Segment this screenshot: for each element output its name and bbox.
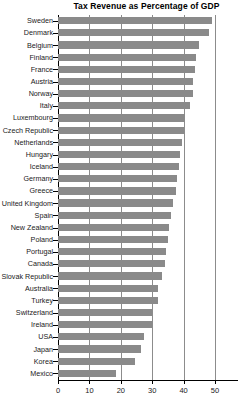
bar-row [58,210,238,222]
y-axis-label: New Zealand [0,224,53,231]
x-axis-label: 10 [85,386,93,395]
bar-row [58,51,238,63]
bar [58,78,193,85]
bar [58,17,212,24]
y-axis-label: Korea [0,358,53,365]
bar-row [58,355,238,367]
y-axis-label: Austria [0,78,53,85]
bar [58,127,184,134]
y-axis-label: Norway [0,90,53,97]
bar [58,199,173,206]
y-axis-label: Belgium [0,42,53,49]
bar [58,29,209,36]
bar-row [58,270,238,282]
bar-row [58,100,238,112]
bar-chart: Tax Revenue as Percentage of GDP SwedenD… [0,0,238,408]
bar-row [58,137,238,149]
bar [58,260,165,267]
bar [58,272,162,279]
y-axis-label: Mexico [0,370,53,377]
bar [58,102,190,109]
bar-row [58,295,238,307]
bar-row [58,124,238,136]
y-axis-label: Canada [0,260,53,267]
x-axis-tick [152,380,153,384]
x-axis-tick [121,380,122,384]
bar [58,370,116,377]
bar-row [58,185,238,197]
y-axis-label: Turkey [0,297,53,304]
bar [58,333,144,340]
y-axis-label: USA [0,333,53,340]
bar [58,90,193,97]
bar-row [58,307,238,319]
y-axis-label: Germany [0,175,53,182]
y-axis-label: Czech Republic [0,127,53,134]
chart-title: Tax Revenue as Percentage of GDP [55,1,238,11]
y-axis-label: Hungary [0,151,53,158]
y-axis-label: Netherlands [0,139,53,146]
bar-row [58,222,238,234]
y-axis-label: Italy [0,102,53,109]
x-axis-label: 0 [56,386,60,395]
bar [58,151,180,158]
bar-row [58,39,238,51]
bar-row [58,149,238,161]
bar [58,224,169,231]
y-axis-label: Japan [0,346,53,353]
bar [58,139,182,146]
bar-row [58,246,238,258]
y-axis-label: Greece [0,187,53,194]
bar-row [58,15,238,27]
bar-row [58,173,238,185]
bar [58,248,166,255]
bar [58,297,158,304]
bar-row [58,27,238,39]
y-axis-label: Australia [0,285,53,292]
bar [58,321,152,328]
y-axis-label: Switzerland [0,309,53,316]
y-axis-label: Iceland [0,163,53,170]
y-axis-label: Slovak Republic [0,273,53,280]
bar [58,41,199,48]
y-axis-label: Portugal [0,248,53,255]
bar-row [58,343,238,355]
bar-row [58,112,238,124]
bar-row [58,283,238,295]
bar [58,285,158,292]
bar [58,345,141,352]
y-axis-label: Poland [0,236,53,243]
y-axis-label: France [0,66,53,73]
x-axis-tick [184,380,185,384]
y-axis-label: Sweden [0,17,53,24]
bar-row [58,234,238,246]
bar [58,212,171,219]
y-axis-label: Finland [0,54,53,61]
bar [58,309,152,316]
bar [58,175,177,182]
x-axis-ticks-and-labels: 01020304050 [0,380,238,408]
bar [58,358,135,365]
bar [58,54,196,61]
bar [58,187,176,194]
x-axis-label: 30 [148,386,156,395]
y-axis-label: Luxembourg [0,114,53,121]
bar-row [58,368,238,380]
y-axis-label: Ireland [0,321,53,328]
bar [58,236,168,243]
y-axis-label: Spain [0,212,53,219]
y-axis-label: United Kingdom [0,200,53,207]
bar-row [58,258,238,270]
bar-row [58,88,238,100]
x-axis-tick [215,380,216,384]
x-axis-tick [58,380,59,384]
x-axis-label: 40 [179,386,187,395]
bar-row [58,319,238,331]
bar [58,163,179,170]
bar-row [58,76,238,88]
bar-row [58,197,238,209]
y-axis-label: Denmark [0,29,53,36]
y-axis-category-labels: SwedenDenmarkBelgiumFinlandFranceAustria… [0,15,53,380]
bar-row [58,161,238,173]
x-axis-label: 20 [117,386,125,395]
